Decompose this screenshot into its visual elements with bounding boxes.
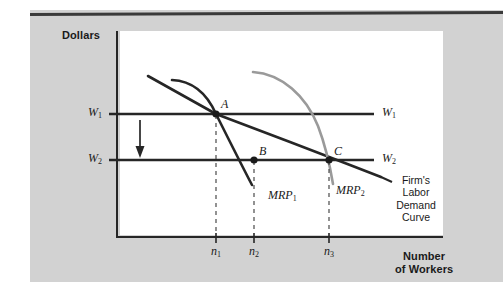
demand-curve-note-line3: Demand: [389, 199, 443, 211]
point-label-b: B: [259, 145, 266, 158]
firms-labor-demand-curve: [148, 76, 381, 177]
wage-label-w2-right: W2: [382, 152, 396, 166]
curve-label-mrp2: MRP2: [336, 184, 365, 198]
wage-label-w1-left: W1: [88, 106, 102, 120]
demand-curve-note-line1: Firm's: [389, 174, 443, 186]
demand-curve-note-line4: Curve: [389, 211, 443, 223]
x-axis-title: Number of Workers: [395, 250, 453, 276]
demand-curve-note: Firm's Labor Demand Curve: [389, 174, 443, 224]
downward-shift-arrow-icon: [136, 120, 145, 158]
y-axis-title: Dollars: [62, 30, 100, 42]
curve-label-mrp1: MRP1: [268, 189, 297, 203]
x-axis-title-line1: Number: [395, 250, 453, 263]
point-label-c: C: [334, 145, 342, 158]
point-marker-c: [325, 156, 332, 163]
point-label-a: A: [221, 98, 228, 111]
tick-label-n3: n3: [319, 245, 339, 259]
point-marker-a: [212, 110, 219, 117]
wage-label-w2-left: W2: [88, 152, 102, 166]
point-marker-b: [250, 156, 257, 163]
demand-curve-note-line2: Labor: [389, 186, 443, 198]
tick-label-n1: n1: [206, 245, 226, 259]
x-axis-title-line2: of Workers: [395, 263, 453, 276]
mrp2-curve: [253, 72, 333, 184]
wage-label-w1-right: W1: [382, 106, 396, 120]
tick-label-n2: n2: [244, 245, 264, 259]
labor-demand-figure: Dollars Number of Workers W1 W2 W1 W2 A …: [0, 0, 503, 302]
